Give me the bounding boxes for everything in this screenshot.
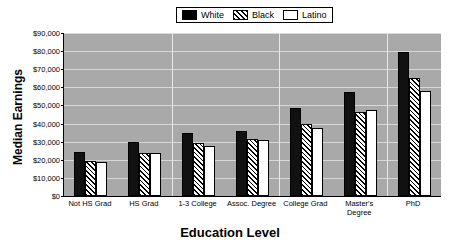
bar-group (172, 33, 226, 196)
bar-black (301, 124, 312, 196)
bar-group (118, 33, 172, 196)
bar-group (226, 33, 280, 196)
x-axis-tick-label: HS Grad (117, 200, 171, 209)
bar-black (247, 139, 258, 196)
bar-series-container (64, 33, 441, 196)
x-axis-tick-label: Master's Degree (332, 200, 386, 217)
legend-entry-latino: Latino (283, 10, 327, 20)
x-axis-tick-label: Not HS Grad (63, 200, 117, 209)
bar-latino (204, 146, 215, 196)
y-axis-tick-label: $90,000 (33, 29, 64, 38)
bar-group (387, 33, 441, 196)
chart-legend: White Black Latino (176, 7, 333, 23)
y-axis-tick-mark (61, 196, 64, 197)
bar-white (182, 133, 193, 196)
bar-latino (366, 110, 377, 196)
bar-black (139, 153, 150, 196)
x-axis-tick-label: College Grad (278, 200, 332, 209)
bar-black (355, 112, 366, 196)
bar-black (193, 143, 204, 196)
legend-entry-white: White (182, 10, 224, 20)
bar-latino (150, 153, 161, 196)
x-axis-tick-label: Assoc. Degree (225, 200, 279, 209)
y-axis-tick-label: $40,000 (33, 119, 64, 128)
bar-white (74, 152, 85, 196)
bar-chart: White Black Latino Median Earnings $0$10… (0, 0, 460, 248)
x-axis-tick-label: PhD (386, 200, 440, 209)
legend-swatch-latino-icon (283, 10, 298, 20)
y-axis-tick-label: $50,000 (33, 101, 64, 110)
plot-area: $0$10,000$20,000$30,000$40,000$50,000$60… (63, 33, 441, 197)
bar-black (409, 78, 420, 196)
bar-group (64, 33, 118, 196)
legend-swatch-white-icon (182, 10, 197, 20)
x-axis-tick-label: 1-3 College (171, 200, 225, 209)
y-axis-tick-label: $30,000 (33, 137, 64, 146)
x-axis-title: Education Level (0, 225, 460, 240)
y-axis-tick-label: $70,000 (33, 65, 64, 74)
legend-label-white: White (201, 10, 224, 20)
bar-white (344, 92, 355, 196)
y-axis-tick-label: $10,000 (33, 173, 64, 182)
y-axis-tick-label: $80,000 (33, 47, 64, 56)
bar-white (290, 108, 301, 196)
legend-label-black: Black (252, 10, 274, 20)
y-axis-tick-label: $60,000 (33, 83, 64, 92)
bar-latino (96, 162, 107, 196)
bar-latino (258, 140, 269, 196)
legend-entry-black: Black (233, 10, 274, 20)
bar-group (333, 33, 387, 196)
bar-group (279, 33, 333, 196)
bar-white (128, 142, 139, 196)
y-axis-title: Median Earnings (11, 57, 25, 177)
legend-swatch-black-icon (233, 10, 248, 20)
bar-white (236, 131, 247, 196)
bar-latino (312, 128, 323, 196)
bar-black (85, 161, 96, 196)
bar-latino (420, 91, 431, 196)
legend-label-latino: Latino (302, 10, 327, 20)
bar-white (398, 52, 409, 196)
y-axis-tick-label: $20,000 (33, 155, 64, 164)
